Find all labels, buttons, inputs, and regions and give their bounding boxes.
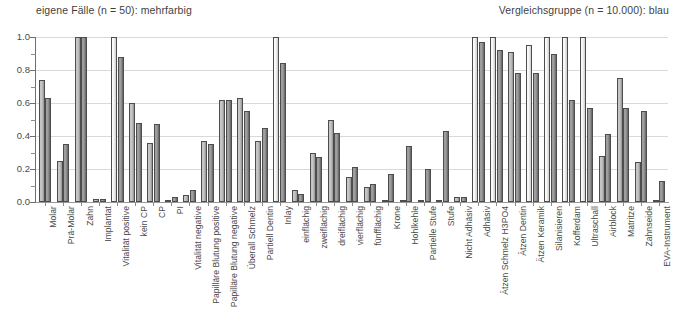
bar-chart: eigene Fälle (n = 50): mehrfarbig Vergle… (0, 0, 675, 316)
x-axis-tick-label: Papilläre Blutung negative (229, 206, 239, 307)
x-axis-labels: MolarPrä-MolarZahnImplantatVitalität pos… (36, 206, 668, 316)
x-axis-tick-label: Molar (48, 206, 58, 228)
y-axis-minor-tick (31, 186, 36, 187)
bar-reference-24 (479, 42, 485, 202)
x-axis-tick-label: Papilläre Blutung positive (211, 206, 221, 304)
y-axis-tick (30, 103, 36, 104)
x-axis-tick-label: Inlay (283, 206, 293, 224)
bar-reference-26 (515, 73, 521, 202)
bar-reference-16 (334, 133, 340, 202)
x-axis-tick-label: Adhäsiv (482, 206, 492, 237)
bar-reference-18 (370, 184, 376, 202)
bar-own-4 (111, 37, 117, 202)
bar-own-25 (490, 37, 496, 202)
bar-own-8 (183, 195, 189, 202)
y-axis-tick-label: 0.4 (2, 130, 30, 141)
bar-reference-27 (533, 73, 539, 202)
y-axis-tick (30, 70, 36, 71)
x-axis-tick-label: Ätzen Keramik (536, 206, 546, 263)
bar-reference-32 (623, 108, 629, 202)
bar-own-32 (617, 78, 623, 202)
bar-own-33 (635, 162, 641, 202)
bar-own-12 (255, 141, 261, 202)
x-axis-tick-label: Zahn (85, 206, 95, 226)
bar-own-24 (472, 37, 478, 202)
x-axis-tick-label: Ultraschall (590, 206, 600, 247)
bar-reference-19 (388, 174, 394, 202)
bar-reference-8 (190, 190, 196, 202)
y-axis-tick (30, 136, 36, 137)
x-axis-tick-label: vierflächig (355, 206, 365, 245)
bar-own-28 (544, 37, 550, 202)
bar-reference-30 (587, 108, 593, 202)
x-axis-tick-label: Airblock (608, 206, 618, 237)
bar-reference-25 (497, 50, 503, 202)
x-axis-tick-label: Krone (392, 206, 402, 229)
y-axis-tick-label: 1.0 (2, 31, 30, 42)
bar-reference-1 (63, 144, 69, 202)
bar-own-5 (129, 103, 135, 202)
bar-reference-31 (605, 134, 611, 202)
bar-own-14 (292, 190, 298, 202)
x-axis-tick-label: Vitalität negative (193, 206, 203, 270)
bar-reference-0 (45, 98, 51, 202)
bars-layer (36, 37, 668, 202)
bar-own-27 (526, 45, 532, 202)
x-axis-tick-label: Überall Schmelz (247, 206, 257, 269)
bar-reference-21 (425, 169, 431, 202)
x-axis-tick-label: Vitalität positive (121, 206, 131, 266)
x-axis-tick-label: Stufe (446, 206, 456, 226)
bar-reference-34 (659, 181, 665, 202)
bar-own-2 (75, 37, 81, 202)
legend-comparison-group: Vergleichsgruppe (n = 10.000): blau (499, 4, 669, 16)
x-axis-tick-label: einflächig (301, 206, 311, 243)
x-axis-tick-label: Nicht Adhäsiv (464, 206, 474, 259)
bar-own-18 (364, 187, 370, 202)
bar-own-11 (237, 98, 243, 202)
y-axis-minor-tick (31, 153, 36, 154)
bar-own-15 (310, 153, 316, 203)
bar-own-9 (201, 141, 207, 202)
x-axis-tick-label: Partiell Dentin (265, 206, 275, 260)
x-axis-tick-label: Zahnseide (644, 206, 654, 247)
x-axis-tick-label: Hohlkehle (410, 206, 420, 245)
bar-own-0 (39, 80, 45, 202)
x-axis-tick-label: dreiflächig (337, 206, 347, 246)
bar-own-1 (57, 161, 63, 202)
y-axis-tick (30, 37, 36, 38)
bar-own-6 (147, 143, 153, 202)
y-axis-tick-label: 0.2 (2, 163, 30, 174)
x-axis-tick-label: Silanisieren (554, 206, 564, 251)
bar-reference-9 (208, 144, 214, 202)
bar-own-17 (346, 177, 352, 202)
bar-own-30 (580, 37, 586, 202)
y-axis-tick-label: 0.6 (2, 97, 30, 108)
y-axis-tick (30, 169, 36, 170)
legend-own-cases: eigene Fälle (n = 50): mehrfarbig (36, 4, 192, 16)
bar-reference-4 (118, 57, 124, 202)
y-axis-minor-tick (31, 54, 36, 55)
bar-reference-28 (551, 54, 557, 203)
bar-own-29 (562, 37, 568, 202)
y-axis-labels: 1.00.80.60.40.20.0 (0, 0, 30, 316)
bar-reference-29 (569, 100, 575, 202)
y-axis-tick-label: 0.8 (2, 64, 30, 75)
bar-reference-10 (226, 100, 232, 202)
x-axis-tick-label: Matritze (626, 206, 636, 237)
x-axis-tick-label: PI (175, 206, 185, 214)
y-axis-tick (30, 202, 36, 203)
x-axis-tick-label: Ätzen Dentin (518, 206, 528, 256)
x-axis-tick-label: Ätzen Schmelz H3PO4 (500, 206, 510, 295)
x-axis-tick-label: CP (157, 206, 167, 218)
bar-reference-5 (136, 123, 142, 202)
bar-reference-33 (641, 111, 647, 202)
bar-reference-13 (280, 63, 286, 202)
bar-reference-6 (154, 124, 160, 202)
x-axis-tick-label: zweiflächig (319, 206, 329, 249)
x-axis-tick-label: EVA-Instrument (662, 206, 672, 267)
x-axis-tick-label: kein CP (139, 206, 149, 236)
bar-own-26 (508, 52, 514, 202)
bar-reference-20 (406, 146, 412, 202)
bar-own-16 (328, 120, 334, 203)
x-axis-tick-label: Partielle Stufe (428, 206, 438, 260)
